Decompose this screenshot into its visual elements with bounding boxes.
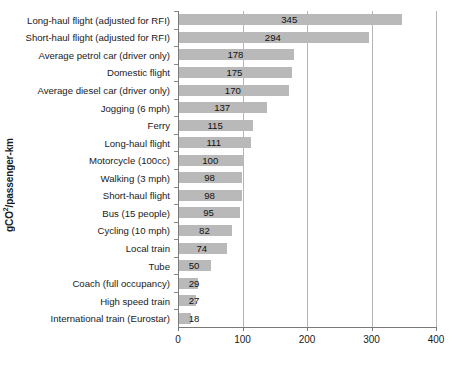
y-axis-tick [174, 239, 178, 240]
category-label: Local train [18, 243, 170, 254]
y-axis-tick [174, 292, 178, 293]
bar-value-label: 50 [181, 260, 207, 271]
x-axis-tick-label: 200 [287, 334, 327, 345]
y-axis-tick [174, 64, 178, 65]
bar-value-label: 175 [221, 67, 247, 78]
bar-value-label: 98 [197, 172, 223, 183]
x-axis-tick-label: 300 [352, 334, 392, 345]
bar-chart: gCO2/passenger-km Long-haul flight (adju… [0, 0, 454, 365]
plot-area: 3452941781751701371151111009898958274502… [178, 11, 436, 327]
category-label: Motorcycle (100cc) [18, 155, 170, 166]
x-axis-tick-label: 400 [416, 334, 454, 345]
x-axis-tick-label: 0 [158, 334, 198, 345]
bar-value-label: 27 [181, 295, 207, 306]
bar-value-label: 294 [260, 32, 286, 43]
category-label: Cycling (10 mph) [18, 225, 170, 236]
y-axis-tick [174, 187, 178, 188]
bar-value-label: 170 [220, 85, 246, 96]
gridline-400 [436, 11, 437, 327]
category-label: Bus (15 people) [18, 208, 170, 219]
y-axis-tick [174, 274, 178, 275]
bar-value-label: 100 [197, 155, 223, 166]
bar-value-label: 98 [197, 190, 223, 201]
bar-value-label: 178 [222, 49, 248, 60]
bar-value-label: 95 [196, 207, 222, 218]
y-axis-tick [174, 29, 178, 30]
bar-value-label: 82 [191, 225, 217, 236]
bar-value-label: 111 [201, 137, 227, 148]
y-axis-tick [174, 169, 178, 170]
bar-value-label: 345 [276, 14, 302, 25]
y-axis-tick [174, 204, 178, 205]
bar-value-label: 74 [189, 243, 215, 254]
bar-value-label: 115 [202, 120, 228, 131]
x-axis-tick-0 [178, 327, 179, 331]
gridline-300 [372, 11, 373, 327]
bar-value-label: 137 [209, 102, 235, 113]
category-label: Average petrol car (driver only) [18, 50, 170, 61]
bar-value-label: 18 [181, 313, 207, 324]
category-label: Long-haul flight [18, 138, 170, 149]
x-axis-tick-100 [243, 327, 244, 331]
x-axis-tick-label: 100 [223, 334, 263, 345]
y-axis-tick [174, 11, 178, 12]
category-label: Tube [18, 261, 170, 272]
category-label: Walking (3 mph) [18, 173, 170, 184]
x-axis-tick-400 [436, 327, 437, 331]
category-label: Average diesel car (driver only) [18, 85, 170, 96]
y-axis-tick [174, 309, 178, 310]
category-label: High speed train [18, 296, 170, 307]
y-axis-tick [174, 116, 178, 117]
y-axis-title: gCO2/passenger-km [2, 130, 18, 240]
category-label: Coach (full occupancy) [18, 278, 170, 289]
x-axis-tick-300 [372, 327, 373, 331]
y-axis-tick [174, 222, 178, 223]
category-label: Domestic flight [18, 67, 170, 78]
category-label: Short-haul flight (adjusted for RFI) [18, 32, 170, 43]
y-axis-title-superscript: 2 [2, 207, 9, 211]
category-label: International train (Eurostar) [18, 313, 170, 324]
y-axis-title-prefix: gCO [4, 211, 15, 232]
y-axis-tick [174, 81, 178, 82]
y-axis-tick [174, 151, 178, 152]
y-axis-tick [174, 257, 178, 258]
y-axis-tick [174, 99, 178, 100]
gridline-200 [307, 11, 308, 327]
bar-value-label: 29 [181, 278, 207, 289]
category-label-column: Long-haul flight (adjusted for RFI)Short… [18, 11, 174, 327]
y-axis-tick [174, 134, 178, 135]
category-label: Short-haul flight [18, 190, 170, 201]
category-label: Long-haul flight (adjusted for RFI) [18, 15, 170, 26]
x-axis-tick-200 [307, 327, 308, 331]
category-label: Jogging (6 mph) [18, 103, 170, 114]
y-axis-tick [174, 46, 178, 47]
category-label: Ferry [18, 120, 170, 131]
y-axis-title-suffix: /passenger-km [4, 138, 15, 207]
